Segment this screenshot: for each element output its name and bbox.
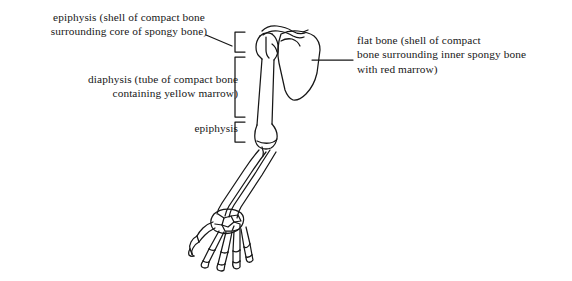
ulna-bone-outer	[217, 150, 259, 214]
middle-joint-2	[218, 264, 225, 265]
little-joint-2	[246, 255, 252, 257]
humerus-greater-tubercle	[272, 44, 277, 52]
thumb-joint-1	[197, 236, 199, 242]
middle-proximal-inner	[225, 252, 228, 264]
diaphysis-bracket	[235, 57, 245, 117]
epiphysis-top-bracket	[235, 32, 245, 52]
carpal-bone-1	[215, 214, 224, 225]
middle-metacarpal-inner	[228, 232, 232, 252]
ring-joint-2	[233, 261, 240, 263]
humerus-shaft-lateral	[257, 59, 262, 125]
humerus-trochlea-detail	[262, 147, 263, 156]
humerus-condyle-line	[257, 139, 277, 143]
index-proximal-inner	[209, 250, 215, 262]
little-distal-phalanx	[246, 255, 253, 262]
index-joint-2	[203, 261, 209, 262]
scapula-spine	[281, 39, 300, 46]
carpal-bone-2	[222, 216, 234, 227]
ring-joint-1	[233, 250, 240, 252]
thumb-proximal-phalanx-lower	[192, 242, 199, 254]
little-proximal-outer	[244, 247, 246, 257]
humerus-head-lateral	[256, 36, 262, 59]
clavicle-bone-lower-edge	[263, 31, 304, 38]
little-joint-1	[244, 244, 250, 248]
humerus-head-crown	[260, 33, 272, 36]
little-metacarpal-outer	[241, 229, 244, 247]
little-proximal-inner	[250, 244, 252, 255]
middle-metacarpal-outer	[221, 232, 226, 252]
skeleton-illustration	[0, 0, 572, 281]
humerus-shaft-medial	[272, 60, 274, 124]
epiphysis-bottom-bracket	[235, 122, 245, 142]
epiphysis-top-leader-line	[206, 35, 232, 46]
humerus-head-groove	[266, 37, 269, 58]
little-metacarpal-inner	[246, 227, 250, 244]
index-proximal-outer	[203, 249, 209, 261]
humerus-distal-end	[255, 124, 277, 149]
index-joint-1	[209, 249, 215, 250]
middle-proximal-outer	[218, 252, 221, 264]
figure-canvas: epiphysis (shell of compact bone surroun…	[0, 0, 572, 281]
scapula-bone	[278, 31, 320, 100]
ulna-bone-inner	[225, 152, 266, 216]
ring-metacarpal-outer	[233, 231, 234, 251]
middle-joint-1	[221, 252, 228, 253]
